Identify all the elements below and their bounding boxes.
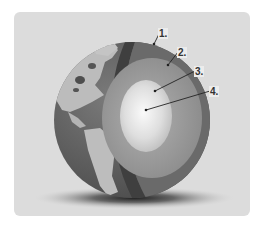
label-outer-core: 3.	[194, 66, 204, 77]
label-mantle: 2.	[177, 47, 187, 58]
layer-inner-core	[120, 80, 172, 152]
label-inner-core: 4.	[209, 86, 219, 97]
label-crust: 1.	[158, 28, 168, 39]
earth-layers-diagram	[0, 0, 264, 228]
